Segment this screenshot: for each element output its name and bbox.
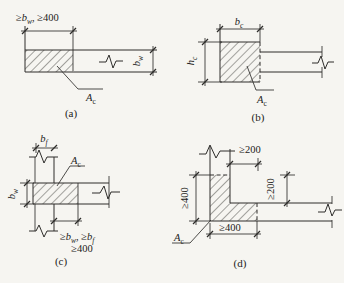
caption-d: (d): [234, 257, 247, 270]
area-label-c: Ac: [70, 155, 81, 169]
hatched-area-c: [33, 183, 78, 204]
hatched-area-b: [220, 42, 260, 82]
figure-d: ≥200 ≥200 ≥400 ≥400 Ac (d): [172, 144, 342, 270]
caption-b: (b): [252, 111, 265, 124]
dim-label-b-hc: hc: [185, 56, 199, 65]
scanned-diagram-page: ≥bw, ≥400 bw Ac (a): [0, 0, 344, 283]
figure-a: ≥bw, ≥400 bw Ac (a): [16, 12, 157, 120]
caption-c: (c): [55, 255, 68, 268]
dim-label-d-left: ≥400: [179, 187, 190, 209]
dim-label-d-right: ≥200: [265, 178, 276, 200]
figure-b: bc hc Ac (b): [185, 16, 334, 124]
area-label-d: Ac: [173, 232, 184, 246]
break-symbol-b: [312, 56, 334, 69]
break-symbol-c-right: [92, 186, 120, 199]
dim-label-d-bottom: ≥400: [219, 222, 241, 233]
figure-c: bf Ac bw ≥bw, ≥bf ≥400 (c): [6, 133, 120, 268]
wall-outline-b: [260, 46, 322, 78]
dim-label-a-top: ≥bw, ≥400: [16, 12, 59, 26]
area-label-a: Ac: [85, 92, 96, 106]
area-label-b: Ac: [256, 94, 267, 108]
break-symbol-a: [99, 55, 123, 68]
dim-label-c-end-line2: ≥400: [71, 243, 93, 254]
caption-a: (a): [65, 107, 78, 120]
break-symbol-d-right: [318, 204, 342, 216]
flange-wall-upper-c: [29, 150, 58, 183]
dim-label-d-top: ≥200: [239, 144, 261, 155]
dim-label-c-bf: bf: [40, 133, 48, 147]
dim-label-a-bw: bw: [131, 56, 145, 66]
wall-edge-member-diagram: ≥bw, ≥400 bw Ac (a): [0, 0, 344, 283]
flange-wall-lower-c: [29, 204, 58, 237]
dim-label-b-bc: bc: [235, 16, 244, 30]
hatched-area-d: [210, 175, 257, 221]
hatched-area-a: [25, 50, 73, 72]
rest: , ≥400: [32, 12, 59, 23]
dim-label-c-bw: bw: [6, 189, 20, 199]
